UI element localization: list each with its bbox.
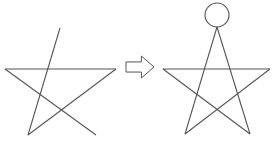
right-star-line-1 (217, 27, 250, 134)
left-star-line-2 (5, 69, 96, 135)
head-circle (205, 3, 229, 27)
left-star-line-3 (28, 69, 116, 135)
right-star-line-4 (185, 69, 270, 134)
right-star-line-3 (163, 69, 250, 134)
right-star-line-0 (185, 27, 217, 134)
incomplete-star-figure (5, 28, 116, 135)
diagram-canvas (0, 0, 275, 143)
right-arrow-icon (126, 56, 154, 78)
left-star-line-0 (28, 28, 60, 135)
arrow-shape (126, 56, 154, 78)
complete-star-with-circle-figure (163, 3, 270, 134)
